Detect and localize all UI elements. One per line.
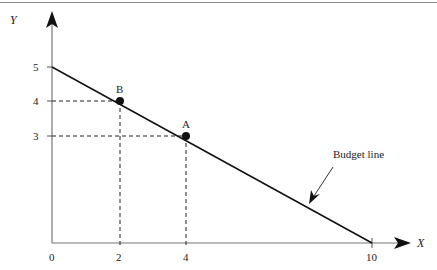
point-b-label: B [116, 83, 123, 95]
point-a-label: A [182, 118, 190, 130]
y-tick-label-3: 3 [33, 130, 39, 142]
x-tick-label-10: 10 [366, 251, 378, 263]
budget-line [52, 67, 372, 243]
annotation-leader [314, 167, 333, 196]
chart-svg: Y X 5 4 3 0 2 4 10 B A Budget line [0, 0, 437, 270]
x-axis-label: X [416, 236, 425, 250]
y-tick-label-4: 4 [33, 95, 39, 107]
y-tick-label-5: 5 [33, 61, 39, 73]
x-tick-label-2: 2 [116, 251, 122, 263]
annotation-arrow-icon [309, 190, 320, 204]
x-tick-label-4: 4 [183, 251, 189, 263]
budget-line-chart: Y X 5 4 3 0 2 4 10 B A Budget line [0, 0, 437, 270]
x-tick-label-0: 0 [49, 251, 55, 263]
y-axis-label: Y [10, 13, 18, 27]
point-a [182, 132, 190, 140]
budget-line-label: Budget line [333, 148, 384, 160]
point-b [116, 97, 124, 105]
